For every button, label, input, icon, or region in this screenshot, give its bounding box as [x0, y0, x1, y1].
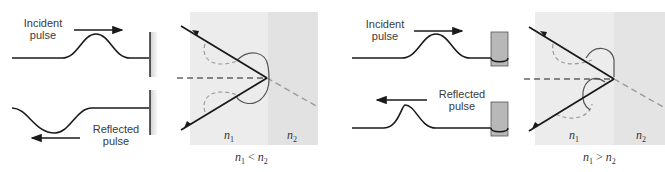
right-string-diagram [352, 31, 508, 136]
left-incident-label: Incidentpulse [18, 17, 68, 41]
wall-shading-top [150, 32, 158, 77]
left-caption: n1 < n2 [235, 150, 268, 166]
medium-n2-panel [614, 12, 665, 145]
right-incident-label: Incidentpulse [360, 18, 410, 42]
left-reflected-label: Reflectedpulse [86, 123, 146, 147]
wall-shading-bottom [150, 90, 158, 135]
medium-n2-panel [268, 12, 318, 145]
right-n2-label: n2 [636, 128, 646, 144]
left-string-diagram [12, 30, 158, 138]
right-ray-diagram [524, 12, 665, 145]
left-ray-diagram [177, 12, 318, 145]
right-n1-label: n1 [569, 128, 579, 144]
right-caption: n1 > n2 [583, 150, 616, 166]
right-reflected-label: Reflectedpulse [432, 88, 492, 112]
left-n1-label: n1 [224, 128, 234, 144]
left-n2-label: n2 [287, 128, 297, 144]
